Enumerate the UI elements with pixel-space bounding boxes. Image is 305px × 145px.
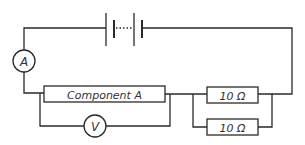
resistor-2-label: 10 Ω <box>220 122 246 135</box>
wire-parallel-left <box>193 94 207 127</box>
wire-left-bottom <box>24 72 44 93</box>
battery-icon <box>106 13 142 46</box>
wire-parallel-right <box>258 94 272 127</box>
voltmeter-label: V <box>91 120 100 134</box>
resistor-1-label: 10 Ω <box>220 90 246 103</box>
resistor-1: 10 Ω <box>207 87 258 103</box>
component-a-label: Component A <box>67 89 142 102</box>
wire-top-right <box>142 28 292 94</box>
ammeter: A <box>13 50 35 72</box>
circuit-diagram: A Component A V 10 Ω 10 Ω <box>0 0 305 145</box>
resistor-2: 10 Ω <box>207 119 258 135</box>
voltmeter: V <box>84 115 106 137</box>
component-a: Component A <box>44 86 165 102</box>
ammeter-label: A <box>19 55 28 69</box>
wire-top-left <box>24 28 106 50</box>
